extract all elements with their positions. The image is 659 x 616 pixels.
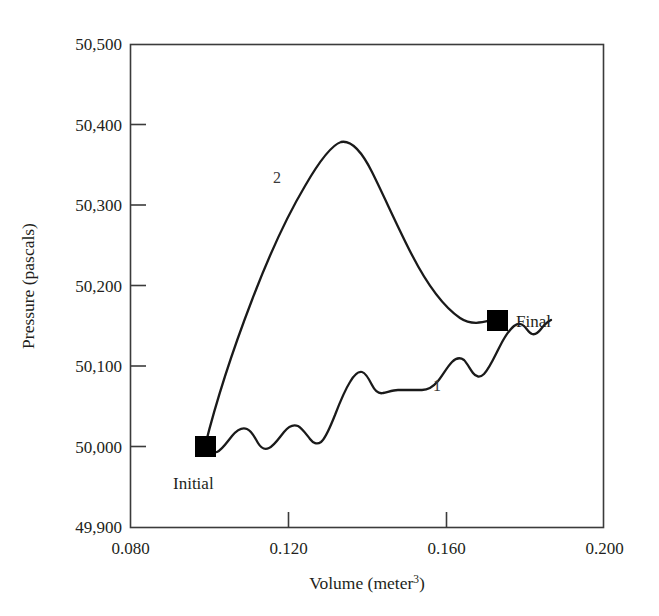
x-axis-title-base: Volume (meter <box>309 573 413 593</box>
y-tick-label-50100: 50,100 <box>75 357 122 376</box>
pv-diagram-figure: 50,500 50,400 50,300 50,200 50,100 50,00… <box>0 0 659 616</box>
y-axis-title: Pressure (pascals) <box>18 223 38 349</box>
y-tick-label-50000: 50,000 <box>75 438 122 457</box>
x-tick-label-0120: 0.120 <box>269 539 307 558</box>
x-axis-title: Volume (meter3) <box>309 573 425 593</box>
x-tick-label-0160: 0.160 <box>427 539 465 558</box>
y-tick-labels: 50,500 50,400 50,300 50,200 50,100 50,00… <box>75 35 122 537</box>
final-point-label: Final <box>516 312 551 331</box>
curve-2-label: 2 <box>273 169 281 186</box>
chart-canvas: 50,500 50,400 50,300 50,200 50,100 50,00… <box>0 0 659 616</box>
y-tick-label-50400: 50,400 <box>75 116 122 135</box>
x-tick-labels: 0.080 0.120 0.160 0.200 <box>111 539 623 558</box>
y-tick-label-49900: 49,900 <box>75 518 122 537</box>
curve-path-2 <box>205 142 492 446</box>
x-axis-ticks <box>289 512 447 528</box>
y-tick-label-50200: 50,200 <box>75 277 122 296</box>
x-tick-label-0080: 0.080 <box>111 539 149 558</box>
y-tick-label-50300: 50,300 <box>75 196 122 215</box>
initial-point-marker <box>195 436 216 457</box>
y-tick-label-50500: 50,500 <box>75 35 122 54</box>
initial-point-label: Initial <box>173 474 214 493</box>
curve-1-label: 1 <box>433 377 441 394</box>
final-point-marker <box>487 310 508 331</box>
curve-path-1 <box>205 320 551 452</box>
x-axis-title-close: ) <box>419 573 425 593</box>
y-axis-ticks <box>131 125 147 447</box>
x-tick-label-0200: 0.200 <box>585 539 623 558</box>
